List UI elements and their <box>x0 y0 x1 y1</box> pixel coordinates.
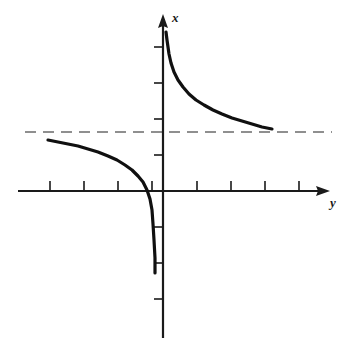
horizontal-axis <box>18 181 330 196</box>
horizontal-axis-label: y <box>330 196 336 209</box>
vertical-axis-label: x <box>172 11 179 24</box>
curve-lower-left-branch <box>48 140 155 273</box>
vertical-axis-arrowhead <box>158 14 168 28</box>
horizontal-axis-arrowhead <box>316 186 330 196</box>
horizontal-axis-ticks <box>50 181 299 191</box>
curve-group <box>48 32 272 273</box>
curve-upper-right-branch <box>166 32 272 129</box>
vertical-axis <box>154 14 168 338</box>
plot-canvas <box>0 0 346 355</box>
hyperbola-figure: x y <box>0 0 346 355</box>
